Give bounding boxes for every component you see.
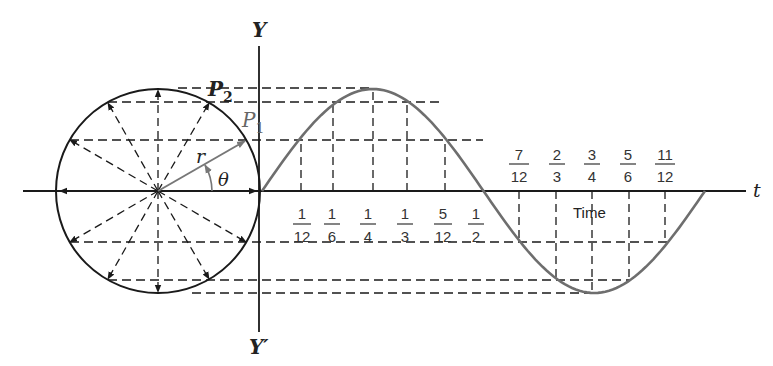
time-label: Time [573,204,606,221]
p2-label: P2 [207,77,233,105]
svg-text:7: 7 [515,146,523,163]
sine-wave-diagram: Y Y′ t P2 P1 r θ Time 1 12 1 6 1 4 1 3 5 [0,0,773,366]
fraction: 2 3 [549,146,565,185]
fractions-below: 1 12 1 6 1 4 1 3 5 12 1 2 [293,205,484,245]
svg-text:12: 12 [294,228,311,245]
svg-text:1: 1 [401,205,409,222]
angle-arc [205,165,212,191]
svg-text:11: 11 [657,146,673,163]
fraction: 1 3 [397,205,413,245]
svg-text:12: 12 [435,228,452,245]
angle-label: θ [218,169,229,190]
svg-text:4: 4 [364,228,372,245]
fraction: 11 12 [655,146,675,185]
fraction: 3 4 [584,146,600,185]
fraction: 1 4 [360,205,376,245]
svg-text:3: 3 [588,146,596,163]
fraction: 5 12 [434,205,452,245]
svg-text:1: 1 [328,205,336,222]
svg-text:6: 6 [624,168,632,185]
fraction: 1 12 [293,205,311,245]
svg-text:2: 2 [472,228,480,245]
svg-text:4: 4 [588,168,596,185]
fraction: 7 12 [509,146,529,185]
svg-text:3: 3 [553,168,561,185]
fractions-above: 7 12 2 3 3 4 5 6 11 12 [509,146,675,185]
fraction: 5 6 [620,146,636,185]
svg-text:1: 1 [472,205,480,222]
y-axis-label: Y [252,18,268,42]
fraction: 1 2 [468,205,484,245]
svg-text:3: 3 [401,228,409,245]
svg-text:2: 2 [553,146,561,163]
svg-text:1: 1 [364,205,372,222]
t-axis-label: t [753,179,761,201]
svg-text:12: 12 [657,168,674,185]
svg-text:1: 1 [298,205,306,222]
fraction: 1 6 [324,205,340,245]
svg-text:5: 5 [624,146,632,163]
y-prime-axis-label: Y′ [249,335,269,359]
p1-label: P1 [241,108,264,136]
svg-text:5: 5 [439,205,447,222]
svg-text:6: 6 [328,228,336,245]
svg-text:12: 12 [511,168,528,185]
